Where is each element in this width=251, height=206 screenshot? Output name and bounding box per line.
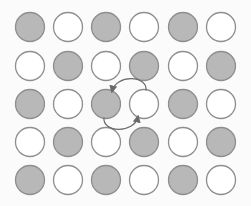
filled-circle xyxy=(16,90,45,119)
checkerboard-swap-diagram xyxy=(0,0,251,206)
filled-circle xyxy=(16,13,45,42)
empty-circle xyxy=(130,166,159,195)
filled-circle xyxy=(130,128,159,157)
empty-circle xyxy=(169,128,198,157)
empty-circle xyxy=(207,13,236,42)
filled-circle xyxy=(92,166,121,195)
empty-circle xyxy=(207,166,236,195)
filled-circle xyxy=(54,52,83,81)
empty-circle xyxy=(92,128,121,157)
empty-circle xyxy=(16,128,45,157)
filled-circle xyxy=(207,52,236,81)
empty-circle xyxy=(54,13,83,42)
empty-circle xyxy=(16,52,45,81)
filled-circle xyxy=(92,13,121,42)
filled-circle xyxy=(130,52,159,81)
empty-circle xyxy=(54,166,83,195)
circle-grid xyxy=(16,13,236,195)
empty-circle xyxy=(130,13,159,42)
empty-circle xyxy=(92,52,121,81)
filled-circle xyxy=(169,90,198,119)
filled-circle xyxy=(169,13,198,42)
empty-circle xyxy=(207,90,236,119)
empty-circle xyxy=(169,52,198,81)
filled-circle xyxy=(54,128,83,157)
filled-circle xyxy=(169,166,198,195)
empty-circle xyxy=(130,90,159,119)
filled-circle xyxy=(207,128,236,157)
empty-circle xyxy=(54,90,83,119)
filled-circle xyxy=(92,90,121,119)
diagram-canvas xyxy=(0,0,251,206)
filled-circle xyxy=(16,166,45,195)
